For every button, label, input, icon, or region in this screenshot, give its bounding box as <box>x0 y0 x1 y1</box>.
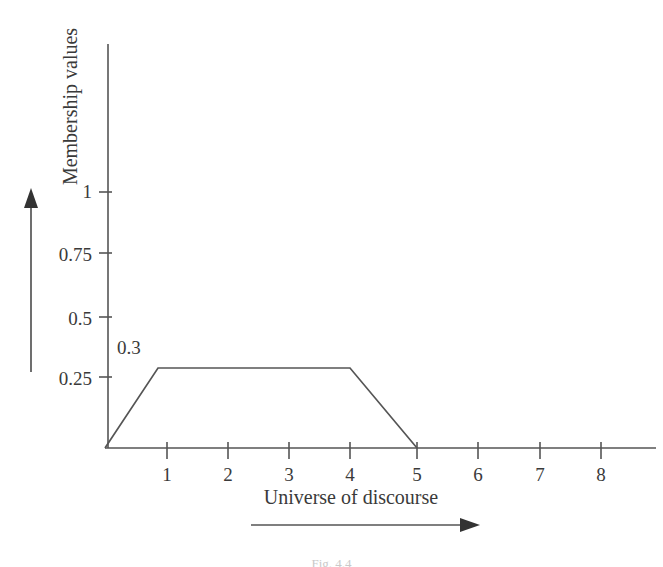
figure-caption: Fig. 4.4 <box>0 556 663 567</box>
x-tick-label-2: 2 <box>208 465 248 484</box>
x-axis-title: Universe of discourse <box>176 486 526 509</box>
y-tick-label-0.75: 0.75 <box>22 245 92 264</box>
x-tick-label-7: 7 <box>520 465 560 484</box>
x-axis-ticks <box>167 442 601 459</box>
up-arrow-icon <box>24 188 38 372</box>
figure-container: 0.25 0.5 0.75 1 1 2 3 4 5 6 7 8 Membersh… <box>0 0 663 567</box>
x-tick-label-1: 1 <box>147 465 187 484</box>
x-tick-label-3: 3 <box>269 465 309 484</box>
x-tick-label-8: 8 <box>581 465 621 484</box>
plateau-value-annotation: 0.3 <box>117 337 141 359</box>
y-axis-ticks <box>99 192 112 377</box>
y-tick-label-0.5: 0.5 <box>22 309 92 328</box>
x-tick-label-6: 6 <box>458 465 498 484</box>
membership-function-curve <box>105 368 417 448</box>
right-arrow-icon <box>251 518 480 532</box>
y-axis-title: Membership values <box>59 7 82 207</box>
x-tick-label-4: 4 <box>330 465 370 484</box>
y-tick-label-0.25: 0.25 <box>22 369 92 388</box>
x-tick-label-5: 5 <box>397 465 437 484</box>
y-tick-label-1: 1 <box>22 182 92 201</box>
